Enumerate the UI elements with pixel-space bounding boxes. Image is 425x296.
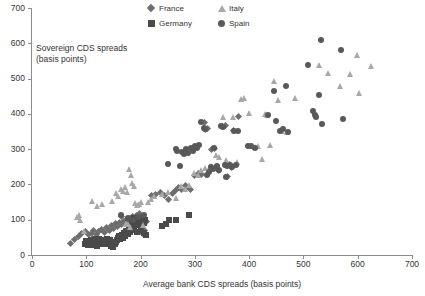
data-point-italy <box>230 114 236 120</box>
y-tick-label: 600 <box>0 39 25 48</box>
data-point-spain <box>252 145 258 151</box>
plot-area: 0100200300400500600700010020030040050060… <box>32 8 412 255</box>
data-point-spain <box>319 121 325 127</box>
data-point-italy <box>325 70 331 76</box>
data-point-spain <box>316 92 322 98</box>
data-point-spain <box>223 174 229 180</box>
y-tick <box>28 220 32 221</box>
data-point-italy <box>267 142 273 148</box>
data-point-italy <box>151 193 157 199</box>
y-axis-line <box>31 8 32 255</box>
data-point-italy <box>368 63 374 69</box>
x-tick-label: 700 <box>399 260 425 269</box>
y-tick-label: 100 <box>0 215 25 224</box>
data-point-italy <box>354 52 360 58</box>
data-point-spain <box>220 124 226 130</box>
data-point-italy <box>109 198 115 204</box>
data-point-italy <box>77 217 83 223</box>
data-point-spain <box>265 112 271 118</box>
data-point-italy <box>275 97 281 103</box>
data-point-italy <box>165 189 171 195</box>
data-point-italy <box>347 71 353 77</box>
data-point-spain <box>285 129 291 135</box>
data-point-italy <box>140 222 146 228</box>
data-point-italy <box>138 199 144 205</box>
data-point-italy <box>241 95 247 101</box>
data-point-spain <box>340 116 346 122</box>
data-point-italy <box>159 191 165 197</box>
data-point-italy <box>246 110 252 116</box>
y-tick-label: 500 <box>0 74 25 83</box>
data-point-france <box>165 196 172 203</box>
data-point-italy <box>356 90 362 96</box>
data-point-germany <box>173 217 179 223</box>
data-point-germany <box>166 217 172 223</box>
data-point-italy <box>128 172 134 178</box>
y-tick-label: 300 <box>0 145 25 154</box>
x-axis-title: Average bank CDS spreads (basis points) <box>32 279 412 289</box>
data-point-italy <box>316 62 322 68</box>
y-tick <box>28 43 32 44</box>
data-point-italy <box>173 195 179 201</box>
data-point-spain <box>235 128 241 134</box>
x-tick-label: 600 <box>345 260 371 269</box>
data-point-italy <box>216 154 222 160</box>
y-tick <box>28 79 32 80</box>
data-point-italy <box>259 156 265 162</box>
scatter-chart-figure: France Italy Germany Spain Sovereign CDS… <box>0 0 425 296</box>
data-point-spain <box>271 88 277 94</box>
y-tick-label: 700 <box>0 4 25 13</box>
y-tick <box>28 149 32 150</box>
data-point-germany <box>141 230 147 236</box>
data-point-italy <box>99 201 105 207</box>
y-tick-label: 200 <box>0 180 25 189</box>
data-point-spain <box>318 37 324 43</box>
data-point-spain <box>233 162 239 168</box>
data-point-spain <box>305 62 311 68</box>
data-point-italy <box>186 182 192 188</box>
y-tick <box>28 184 32 185</box>
x-tick-label: 100 <box>73 260 99 269</box>
data-point-germany <box>186 212 192 218</box>
data-point-spain <box>283 83 289 89</box>
x-tick-label: 500 <box>290 260 316 269</box>
data-point-italy <box>220 114 226 120</box>
data-point-italy <box>337 83 343 89</box>
y-tick-label: 400 <box>0 109 25 118</box>
data-point-spain <box>338 47 344 53</box>
data-point-spain <box>313 114 319 120</box>
data-point-spain <box>177 163 183 169</box>
data-point-spain <box>165 161 171 167</box>
data-point-italy <box>292 95 298 101</box>
x-tick-label: 400 <box>236 260 262 269</box>
data-point-italy <box>124 189 130 195</box>
data-point-spain <box>216 167 222 173</box>
y-tick <box>28 8 32 9</box>
data-point-italy <box>271 78 277 84</box>
x-tick-label: 0 <box>19 260 45 269</box>
y-tick <box>28 114 32 115</box>
data-point-spain <box>273 118 279 124</box>
data-point-italy <box>81 228 87 234</box>
data-point-spain <box>196 142 202 148</box>
x-axis-line <box>31 255 412 256</box>
data-point-italy <box>131 183 137 189</box>
x-tick-label: 200 <box>128 260 154 269</box>
data-point-spain <box>211 145 217 151</box>
x-tick-label: 300 <box>182 260 208 269</box>
y-tick-label: 0 <box>0 251 25 260</box>
